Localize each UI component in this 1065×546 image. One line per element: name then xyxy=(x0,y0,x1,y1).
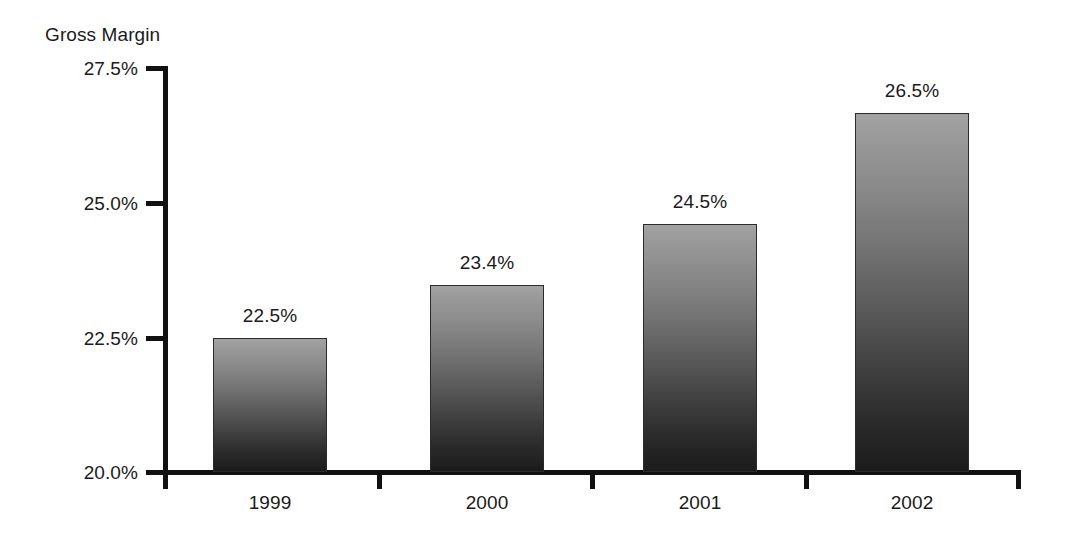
y-axis-line xyxy=(163,66,168,475)
y-axis-tick-label-22-5: 22.5% xyxy=(38,328,138,350)
y-axis-tick-label-20-0: 20.0% xyxy=(38,462,138,484)
x-axis-label-2001: 2001 xyxy=(640,492,760,514)
bar-2001[interactable] xyxy=(643,224,757,472)
y-axis-tick-label-25-0: 25.0% xyxy=(38,193,138,215)
y-axis-tick-25-0 xyxy=(146,201,163,206)
gross-margin-bar-chart: Gross Margin 27.5% 25.0% 22.5% 20.0% 22.… xyxy=(0,0,1065,546)
x-axis-tick-end xyxy=(1016,470,1021,489)
bar-value-1999: 22.5% xyxy=(210,305,330,327)
y-axis-tick-27-5 xyxy=(146,66,163,71)
bar-value-2001: 24.5% xyxy=(640,191,760,213)
x-axis-tick-1 xyxy=(377,470,382,489)
x-axis-tick-2 xyxy=(590,470,595,489)
bar-value-2000: 23.4% xyxy=(427,252,547,274)
bar-1999[interactable] xyxy=(213,338,327,472)
y-axis-tick-label-27-5: 27.5% xyxy=(38,58,138,80)
x-axis-tick-3 xyxy=(804,470,809,489)
x-axis-label-2000: 2000 xyxy=(427,492,547,514)
y-axis-title: Gross Margin xyxy=(45,24,160,46)
bar-2000[interactable] xyxy=(430,285,544,472)
x-axis-label-1999: 1999 xyxy=(210,492,330,514)
x-axis-tick-start xyxy=(163,470,168,489)
x-axis-label-2002: 2002 xyxy=(852,492,972,514)
y-axis-tick-20-0 xyxy=(146,470,163,475)
bar-2002[interactable] xyxy=(855,113,969,472)
y-axis-tick-22-5 xyxy=(146,336,163,341)
bar-value-2002: 26.5% xyxy=(852,80,972,102)
